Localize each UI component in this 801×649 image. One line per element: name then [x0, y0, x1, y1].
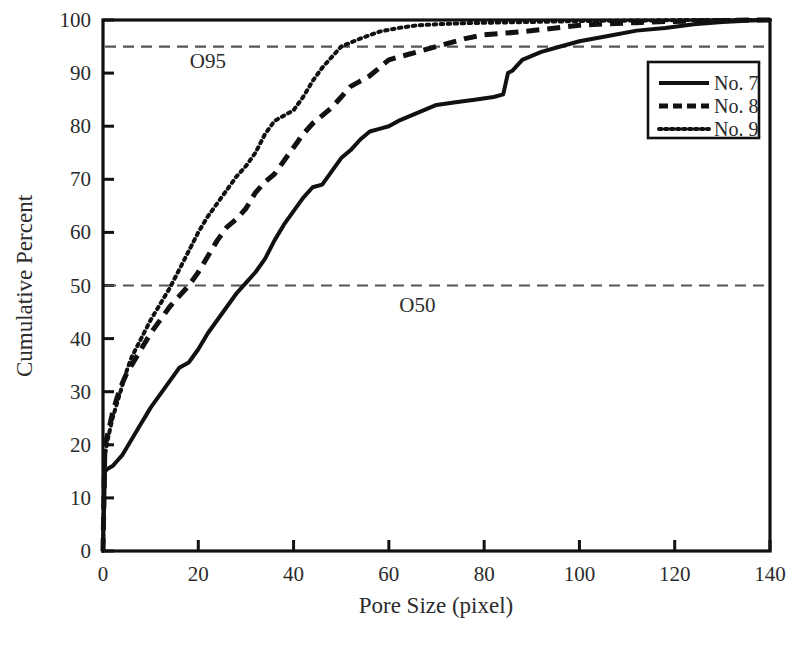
legend-label-no-9: No. 9 — [714, 118, 758, 140]
legend-items: No. 7No. 8No. 9 — [659, 72, 758, 140]
y-tick-label: 50 — [70, 274, 91, 298]
x-tick-label: 120 — [659, 562, 691, 586]
y-tick-label: 70 — [70, 167, 91, 191]
annotation-O95: O95 — [190, 49, 226, 73]
y-tick-label: 40 — [70, 327, 91, 351]
x-tick-label: 140 — [754, 562, 786, 586]
chart-legend: No. 7No. 8No. 9 — [648, 62, 759, 140]
x-tick-label: 0 — [98, 562, 109, 586]
legend-label-no-7: No. 7 — [714, 72, 758, 94]
y-tick-label: 10 — [70, 486, 91, 510]
x-tick-label: 100 — [564, 562, 596, 586]
y-tick-label: 80 — [70, 114, 91, 138]
y-tick-label: 90 — [70, 61, 91, 85]
x-tick-label: 40 — [283, 562, 304, 586]
x-tick-label: 80 — [474, 562, 495, 586]
cumulative-percent-chart: 0102030405060708090100 02040608010012014… — [0, 0, 801, 649]
y-tick-label: 20 — [70, 433, 91, 457]
y-tick-label: 60 — [70, 220, 91, 244]
x-axis-title: Pore Size (pixel) — [359, 593, 514, 618]
x-tick-label: 20 — [188, 562, 209, 586]
y-axis-title: Cumulative Percent — [12, 194, 37, 377]
x-tick-label: 60 — [378, 562, 399, 586]
annotation-O50: O50 — [399, 293, 435, 317]
chart-figure: 0102030405060708090100 02040608010012014… — [0, 0, 801, 649]
y-tick-label: 30 — [70, 380, 91, 404]
y-tick-label: 100 — [60, 8, 92, 32]
y-tick-label: 0 — [81, 539, 92, 563]
legend-label-no-8: No. 8 — [714, 95, 758, 117]
